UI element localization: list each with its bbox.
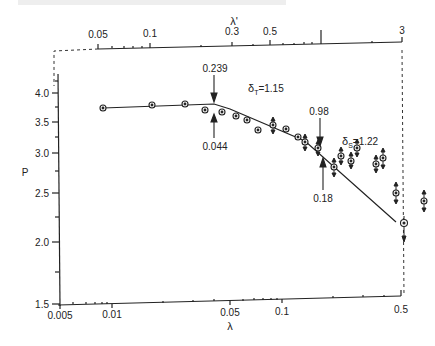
x-tick-label: 0.1 <box>275 306 289 317</box>
data-point <box>219 109 225 115</box>
data-point <box>100 105 106 111</box>
data-point <box>373 161 379 167</box>
x-tick-label: 0.01 <box>102 309 122 320</box>
data-point <box>202 107 208 113</box>
y-axis-labels: 4.0 3.5 3.0 2.5 2.0 1.5 <box>35 88 49 310</box>
top-tick-label: 0.1 <box>143 28 157 39</box>
data-point <box>244 117 250 123</box>
top-axis-title: λ' <box>230 15 238 27</box>
chart: 0.05 0.1 0.3 0.5 3 λ' 4.0 3.5 3.0 2.5 2.… <box>0 0 435 346</box>
data-point <box>302 139 308 145</box>
annotation-0239: 0.239 <box>202 63 227 74</box>
y-tick-label: 1.5 <box>35 299 49 310</box>
y-axis-title: P <box>22 167 29 178</box>
dashed-frame <box>54 49 404 296</box>
y-tick-label: 2.0 <box>35 237 49 248</box>
x-axis-labels: 0.005 0.01 0.05 0.1 0.5 <box>47 304 408 321</box>
top-tick-label: 3 <box>399 25 405 36</box>
data-point <box>393 190 399 196</box>
data-point <box>149 102 155 108</box>
data-point <box>255 127 261 133</box>
x-axis-title: λ <box>227 320 233 332</box>
data-point <box>233 113 239 119</box>
top-tick-label: 0.5 <box>263 26 277 37</box>
top-tick-label: 0.3 <box>225 26 239 37</box>
y-tick-label: 4.0 <box>35 88 49 99</box>
annotation-0044: 0.044 <box>202 141 227 152</box>
data-point <box>380 155 386 161</box>
top-axis-labels: 0.05 0.1 0.3 0.5 3 λ' <box>88 15 405 40</box>
data-points <box>100 101 427 227</box>
data-point <box>270 122 276 128</box>
delta-s-label: δS=1.22 <box>342 135 379 149</box>
top-tick-label: 0.05 <box>88 29 108 40</box>
y-tick-label: 3.0 <box>35 148 49 159</box>
x-tick-label: 0.5 <box>394 304 408 315</box>
data-point <box>331 164 337 170</box>
data-point <box>348 158 354 164</box>
annotation-018: 0.18 <box>313 193 333 204</box>
data-point <box>421 198 427 204</box>
data-point <box>338 153 344 159</box>
y-tick-label: 3.5 <box>35 117 49 128</box>
x-tick-label: 0.005 <box>47 310 72 321</box>
annotation-098: 0.98 <box>309 106 329 117</box>
data-point <box>283 126 289 132</box>
y-tick-label: 2.5 <box>35 188 49 199</box>
data-point <box>182 101 188 107</box>
data-point <box>401 220 408 227</box>
x-tick-label: 0.05 <box>220 307 240 318</box>
delta-t-label: δT=1.15 <box>248 82 284 96</box>
y-axis <box>52 74 60 306</box>
data-point <box>295 134 301 140</box>
